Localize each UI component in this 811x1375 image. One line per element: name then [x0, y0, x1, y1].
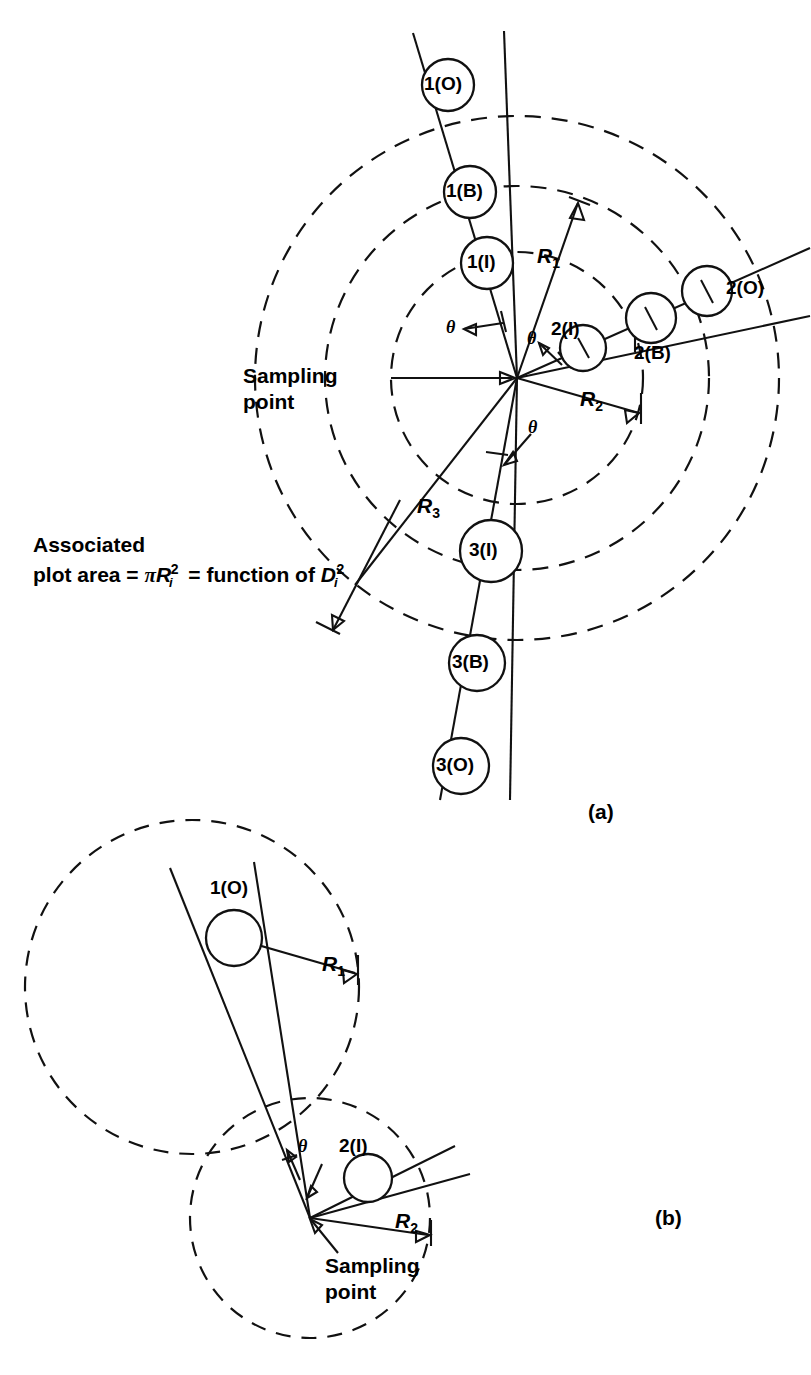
sampling-point-label-panel-a: Sampling point	[243, 363, 338, 415]
note-mid: = function of	[183, 563, 321, 586]
radius-symbol-r1-a: R	[537, 244, 552, 267]
theta-label-3-panel-a: θ	[528, 417, 537, 438]
node-label-2O: 2(O)	[726, 277, 764, 299]
panel-label-a: (a)	[588, 800, 614, 824]
theta1-arrow-head	[464, 324, 476, 335]
associated-plot-area-note: Associated plot area = πRi2 = function o…	[33, 530, 347, 593]
note-D-superscript: 2	[337, 561, 345, 577]
radius-label-r2-panel-a: R2	[580, 387, 603, 411]
node-label-2I: 2(I)	[551, 318, 580, 340]
theta-label-2-panel-a: θ	[527, 328, 536, 349]
radius-subscript-r3-a: 3	[432, 505, 440, 521]
sampling-point-line2-a: point	[243, 389, 338, 415]
r1-arrow-head	[570, 203, 584, 220]
tree-circle-b-1O	[206, 910, 262, 966]
theta-label-1-panel-a: θ	[446, 317, 455, 338]
radius-symbol-r3-a: R	[417, 494, 432, 517]
radius-subscript-r2-a: 2	[595, 398, 603, 414]
samplingb-arrow-line	[312, 1221, 338, 1253]
note-pi-symbol: π	[144, 563, 155, 587]
sampling-point-line2-b: point	[325, 1279, 420, 1305]
node-label-3B: 3(B)	[452, 651, 489, 673]
sampling-point-label-panel-b: Sampling point	[325, 1253, 420, 1305]
theta-label-panel-b: θ	[298, 1136, 307, 1157]
ray-b-1-right	[254, 862, 310, 1218]
figure-canvas	[0, 0, 811, 1375]
note-R-subscript: i	[169, 575, 173, 590]
note-prefix: plot area =	[33, 563, 144, 586]
note-R-superscript: 2	[171, 561, 179, 577]
panel-b-theta-marker	[282, 1150, 322, 1198]
panel-b-rays	[170, 862, 470, 1218]
node-label-3O: 3(O)	[436, 754, 474, 776]
radius-symbol-r2-b: R	[395, 1209, 410, 1232]
node-label-1B: 1(B)	[446, 180, 483, 202]
node-label-1O: 1(O)	[424, 73, 462, 95]
sampling-point-arrow-panel-b	[310, 1219, 338, 1253]
dashed-circle-r1-panel-b	[25, 820, 359, 1154]
sampling-point-arrow-panel-a	[391, 372, 515, 384]
tree-circle-b-2I	[344, 1154, 392, 1202]
radius-label-r1-panel-b: R1	[322, 952, 345, 976]
radius-subscript-r1-b: 1	[337, 963, 345, 979]
node-label-b-2I: 2(I)	[339, 1135, 368, 1157]
sampling-point-line1-a: Sampling	[243, 363, 338, 389]
panel-label-b: (b)	[655, 1206, 682, 1230]
theta3-tick	[486, 452, 508, 455]
thetab2-arrow-head	[307, 1186, 317, 1198]
radius-label-r3-panel-a: R3	[417, 494, 440, 518]
note-line1: Associated	[33, 530, 347, 560]
radius-subscript-r2-b: 2	[410, 1220, 418, 1236]
radius-label-r2-panel-b: R2	[395, 1209, 418, 1233]
note-line2: plot area = πRi2 = function of Di2	[33, 560, 347, 593]
note-D-subscript: i	[334, 575, 338, 590]
ray-3-right	[510, 378, 517, 800]
node-label-b-1O: 1(O)	[210, 877, 248, 899]
panel-a-tree-circles	[422, 59, 732, 794]
r2-arrow-line	[517, 378, 639, 413]
radius-label-r1-panel-a: R1	[537, 244, 560, 268]
r2b-arrow-head	[416, 1231, 430, 1242]
ray-3-left	[440, 378, 517, 800]
node-label-1I: 1(I)	[467, 251, 496, 273]
node-label-3I: 3(I)	[469, 539, 498, 561]
radius-subscript-r1-a: 1	[552, 255, 560, 271]
panel-a-rays	[355, 31, 810, 800]
panel-b-tree-circles	[206, 910, 392, 1202]
radius-symbol-r1-b: R	[322, 952, 337, 975]
radius-symbol-r2-a: R	[580, 387, 595, 410]
figure-root: 1(O) 1(B) 1(I) 2(I) 2(B) 2(O) 3(I) 3(B) …	[0, 0, 811, 1375]
node-label-2B: 2(B)	[634, 342, 671, 364]
sampling-point-line1-b: Sampling	[325, 1253, 420, 1279]
ray-1-right	[504, 31, 517, 378]
